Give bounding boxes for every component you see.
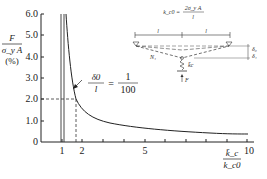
svg-text:10: 10	[244, 145, 254, 156]
svg-text:3.0: 3.0	[26, 72, 39, 83]
axes	[41, 14, 254, 142]
inset-diagram: k_c0 = 2σ_y A l l l N₁ k̄c F δ₀ δ₁	[133, 5, 257, 83]
svg-text:2: 2	[80, 145, 85, 156]
svg-text:σ_y A: σ_y A	[2, 45, 23, 55]
svg-text:(%): (%)	[5, 56, 19, 66]
asymptote-lines	[61, 14, 64, 142]
x-axis-label: k̄_c k_c0	[223, 148, 241, 170]
y-tick-labels: 6.0 5.0 4.0 3.0 2.0 1.0 0	[26, 8, 39, 147]
svg-text:F: F	[8, 33, 15, 43]
svg-text:0: 0	[33, 136, 38, 147]
svg-text:2.0: 2.0	[26, 93, 39, 104]
y-axis-label: F σ_y A (%)	[2, 33, 23, 66]
curve-annotation: δ0 l = 1 100	[73, 71, 138, 95]
svg-text:l: l	[157, 28, 159, 34]
svg-text:N₁: N₁	[149, 54, 156, 60]
svg-text:5.0: 5.0	[26, 29, 39, 40]
guide-lines	[41, 99, 76, 142]
svg-text:l: l	[95, 84, 98, 94]
svg-text:k_c0: k_c0	[224, 160, 241, 170]
svg-text:k̄_c: k̄_c	[226, 148, 239, 158]
svg-text:k̄c: k̄c	[188, 62, 194, 68]
svg-text:100: 100	[121, 84, 136, 95]
svg-text:l: l	[192, 14, 194, 20]
svg-text:l: l	[205, 28, 207, 34]
svg-text:6.0: 6.0	[26, 8, 39, 19]
svg-text:4.0: 4.0	[26, 51, 39, 62]
svg-text:=: =	[108, 78, 114, 89]
svg-text:δ₀: δ₀	[252, 46, 257, 52]
svg-text:5: 5	[143, 145, 148, 156]
svg-text:k_c0 =: k_c0 =	[163, 9, 180, 15]
svg-text:1.0: 1.0	[26, 115, 39, 126]
svg-text:δ₁: δ₁	[252, 53, 257, 59]
svg-text:2σ_y A: 2σ_y A	[185, 5, 202, 11]
svg-text:F: F	[184, 77, 189, 83]
svg-text:1: 1	[60, 145, 65, 156]
chart: 6.0 5.0 4.0 3.0 2.0 1.0 0 1 2 5 10 F σ_y…	[0, 0, 267, 179]
svg-text:δ0: δ0	[92, 72, 101, 82]
svg-text:1: 1	[126, 71, 131, 82]
